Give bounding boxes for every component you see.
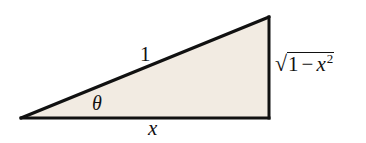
radicand-expression: 1 − x 2 [287, 52, 334, 75]
opposite-side-label: √ 1 − x 2 [275, 52, 334, 75]
radicand-constant: 1 [288, 54, 299, 75]
hypotenuse-label: 1 [140, 44, 151, 65]
radicand-variable: x [316, 54, 325, 75]
angle-theta-label: θ [92, 93, 102, 113]
minus-sign: − [302, 54, 314, 75]
exponent: 2 [327, 52, 334, 65]
triangle-diagram: 1 θ x √ 1 − x 2 [0, 0, 366, 143]
adjacent-side-label: x [148, 118, 157, 139]
square-root-symbol: √ [275, 53, 287, 75]
